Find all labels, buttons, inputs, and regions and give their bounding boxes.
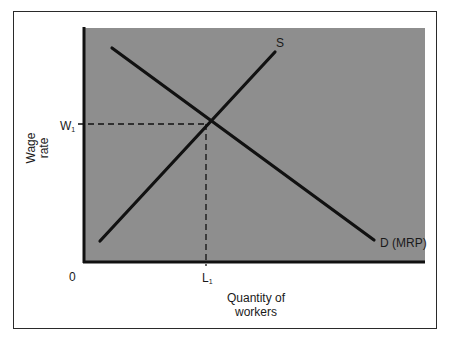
- y-axis-title-line1: Wage: [24, 132, 38, 163]
- y-axis-title: Wage rate: [24, 132, 51, 163]
- labor-market-chart: S D (MRP) W1 L1 0 Quantity of workers Wa…: [0, 0, 450, 344]
- wage-tick-label: W1: [60, 119, 75, 133]
- wage-tick-subscript: 1: [71, 126, 75, 133]
- y-axis-title-line2: rate: [37, 137, 51, 158]
- x-axis-title-line2: workers: [234, 305, 277, 319]
- quantity-tick-label: L1: [202, 271, 213, 285]
- origin-label: 0: [69, 270, 76, 284]
- supply-curve-label: S: [276, 36, 284, 50]
- quantity-tick-subscript: 1: [209, 278, 213, 285]
- demand-curve-label: D (MRP): [380, 236, 427, 250]
- x-axis-title-line1: Quantity of: [227, 291, 286, 305]
- wage-tick-main: W: [60, 119, 72, 133]
